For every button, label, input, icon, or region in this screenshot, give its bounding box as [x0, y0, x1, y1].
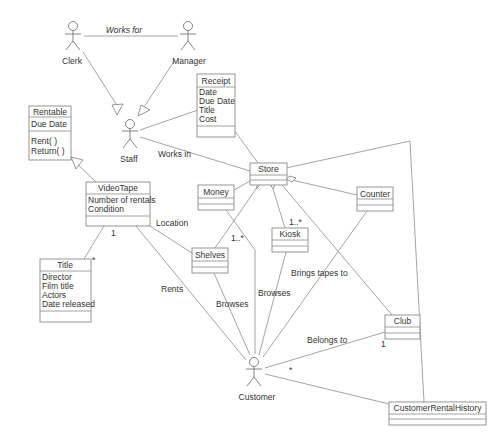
receipt-store-line: [234, 130, 258, 163]
location-label: Location: [156, 218, 188, 228]
store-counter-line: [292, 180, 357, 195]
class-money[interactable]: Money: [198, 185, 234, 210]
actor-customer[interactable]: Customer: [239, 358, 276, 403]
actor-label: Manager: [172, 56, 206, 66]
multiplicity-shelves: 1..*: [231, 233, 244, 243]
actor-head-icon: [69, 22, 78, 31]
class-name: Club: [394, 316, 412, 326]
kiosk-customer-line: [259, 252, 286, 355]
brings-tapes-to-label: Brings tapes to: [291, 268, 348, 278]
staff-receipt-line: [140, 110, 198, 130]
actor-staff[interactable]: Staff: [120, 120, 138, 165]
multiplicity-videotape-title-1: 1: [111, 228, 116, 238]
browses-shelves-label: Browses: [216, 299, 249, 309]
multiplicity-club: 1: [381, 339, 386, 349]
class-shelves[interactable]: Shelves: [192, 248, 228, 273]
manager-staff-generalization: [142, 60, 175, 110]
class-attribute: Date released: [42, 299, 95, 309]
class-name: Store: [258, 164, 279, 174]
actor-manager[interactable]: Manager: [172, 22, 206, 67]
class-videotape[interactable]: VideoTape Number of rentals Condition: [86, 182, 156, 226]
uml-diagram: Clerk Manager Staff Customer Rentable Du…: [0, 0, 495, 446]
class-name: Counter: [360, 189, 390, 199]
belongs-to-label: Belongs to: [307, 335, 347, 345]
class-counter[interactable]: Counter: [357, 187, 393, 211]
actor-clerk[interactable]: Clerk: [62, 22, 83, 67]
store-kiosk-line: [273, 189, 285, 228]
clerk-staff-generalization: [83, 52, 120, 110]
videotape-customer-line: [136, 226, 246, 360]
class-rentable[interactable]: Rentable Due Date Rent( ) Return( ): [29, 106, 71, 160]
browses-kiosk-label: Browses: [258, 288, 291, 298]
class-kiosk[interactable]: Kiosk: [272, 228, 308, 252]
works-for-label: Works for: [106, 25, 144, 35]
class-name: CustomerRentalHistory: [394, 403, 483, 413]
class-attribute: Cost: [199, 114, 217, 124]
class-title[interactable]: Title Director Film title Actors Date re…: [40, 259, 95, 322]
class-name: Money: [203, 187, 229, 197]
class-name: Rentable: [33, 107, 67, 117]
class-customer-rental-history[interactable]: CustomerRentalHistory: [389, 402, 486, 425]
class-name: Title: [57, 260, 73, 270]
clerk-staff-arrowhead-icon: [112, 104, 123, 115]
class-club[interactable]: Club: [385, 315, 420, 339]
class-attribute: Condition: [88, 204, 124, 214]
multiplicity-videotape-title-star: *: [92, 255, 96, 265]
multiplicity-customer: *: [289, 365, 293, 375]
rents-label: Rents: [161, 284, 183, 294]
actor-label: Staff: [120, 154, 138, 164]
actor-label: Customer: [239, 392, 276, 402]
actor-head-icon: [126, 120, 135, 129]
actor-head-icon: [250, 358, 259, 367]
store-counter-diamond-icon: [286, 176, 296, 182]
class-attribute: Due Date: [31, 119, 67, 129]
class-name: Kiosk: [280, 229, 302, 239]
customer-history-line: [265, 374, 389, 404]
class-method: Return( ): [31, 146, 65, 156]
staff-store-line: [140, 137, 250, 171]
works-in-label: Works in: [158, 149, 191, 159]
class-store[interactable]: Store: [250, 163, 287, 185]
videotape-shelves-line: [150, 226, 192, 253]
store-money-line: [234, 181, 250, 190]
class-receipt[interactable]: Receipt Date Due Date Title Cost: [197, 74, 235, 137]
multiplicity-kiosk: 1..*: [289, 217, 302, 227]
class-method: Rent( ): [31, 136, 57, 146]
actor-label: Clerk: [62, 56, 83, 66]
actor-head-icon: [184, 22, 193, 31]
class-name: VideoTape: [98, 183, 138, 193]
manager-staff-arrowhead-icon: [138, 105, 150, 116]
class-name: Receipt: [202, 76, 231, 86]
class-name: Shelves: [195, 250, 225, 260]
videotape-rentable-arrowhead-icon: [71, 157, 83, 169]
